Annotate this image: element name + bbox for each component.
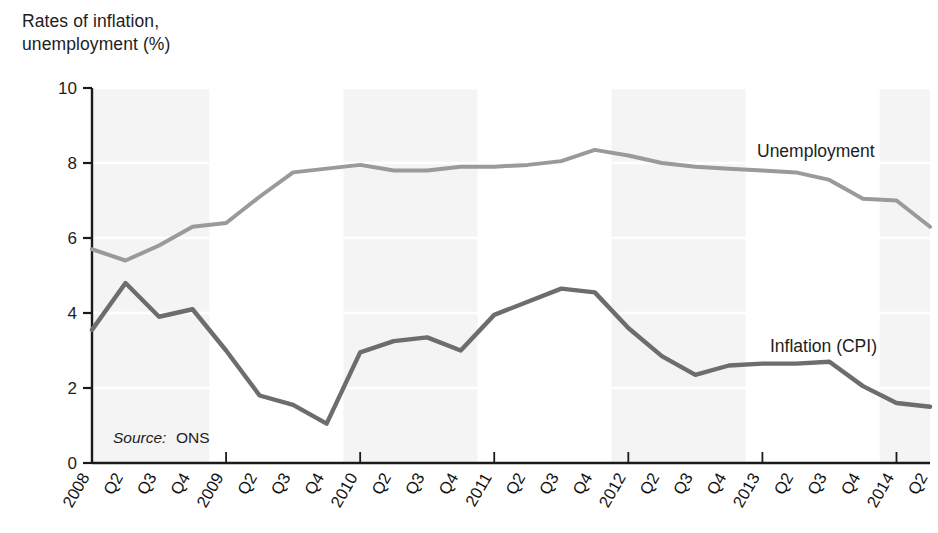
x-tick-label: Q4 [435,470,462,498]
x-tick-label: 2014 [863,470,897,511]
x-tick-label: Q4 [703,470,730,498]
chart-container: Rates of inflation, unemployment (%) 024… [0,0,938,533]
series-label-unemployment: Unemployment [757,141,875,161]
x-tick-label: Q4 [167,470,194,498]
line-chart-plot: 0246810 2008Q2Q3Q42009Q2Q3Q42010Q2Q3Q420… [0,0,938,533]
x-tick-label: Q2 [502,470,529,498]
source-note: Source: ONS [113,429,209,446]
x-tick-label: Q3 [803,470,830,498]
x-tick-label: Q2 [904,470,931,498]
x-tick-label: Q4 [301,470,328,498]
x-tick-label: Q2 [368,470,395,498]
y-tick-label: 8 [68,154,77,173]
y-tick-label: 4 [68,304,77,323]
x-axis-tick-labels: 2008Q2Q3Q42009Q2Q3Q42010Q2Q3Q42011Q2Q3Q4… [59,470,931,511]
x-tick-label: Q2 [100,470,127,498]
series-label-inflation: Inflation (CPI) [770,336,877,356]
x-tick-label: Q4 [569,470,596,498]
x-tick-label: Q3 [401,470,428,498]
x-tick-label: Q2 [770,470,797,498]
x-tick-label: Q3 [267,470,294,498]
y-tick-label: 10 [58,79,77,98]
x-tick-label: 2011 [462,470,495,510]
series-line-unemployment [92,150,930,261]
y-tick-label: 2 [68,379,77,398]
x-tick-label: Q3 [133,470,160,498]
x-tick-label: Q3 [535,470,562,498]
x-tick-label: 2010 [327,470,361,511]
x-tick-label: Q4 [837,470,864,498]
y-axis-ticks [83,88,92,463]
y-tick-label: 6 [68,229,77,248]
x-tick-label: Q3 [669,470,696,498]
source-note-prefix: Source: [113,429,166,446]
x-tick-label: Q2 [636,470,663,498]
x-tick-label: 2008 [59,470,93,511]
x-tick-label: 2012 [595,470,629,511]
x-tick-label: Q2 [234,470,261,498]
y-axis-tick-labels: 0246810 [58,79,77,473]
source-note-text: ONS [176,429,210,446]
x-tick-label: 2013 [729,470,763,511]
x-axis-ticks [92,452,896,463]
x-tick-label: 2009 [193,470,227,511]
